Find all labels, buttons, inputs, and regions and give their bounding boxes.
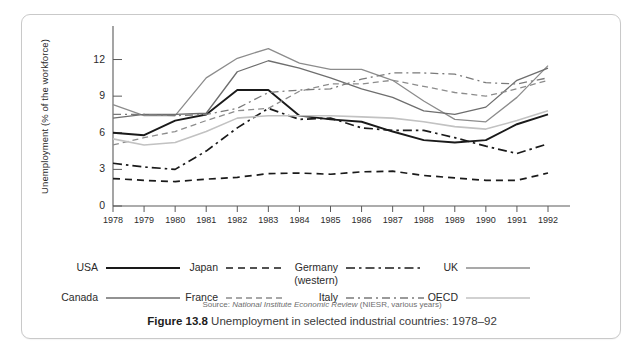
legend-swatch-uk [466, 262, 530, 272]
x-tick-label: 1978 [98, 215, 128, 225]
series-line-italy [113, 73, 548, 116]
x-tick-label: 1988 [409, 215, 439, 225]
x-tick-label: 1982 [222, 215, 252, 225]
series-line-uk [113, 49, 548, 122]
figure-number: Figure 13.8 [147, 315, 208, 327]
x-tick-label: 1992 [533, 215, 563, 225]
x-tick-label: 1986 [347, 215, 377, 225]
x-tick-label: 1981 [191, 215, 221, 225]
legend-label-germany-western: Germany [218, 261, 338, 273]
y-tick-label: 3 [83, 162, 105, 174]
x-tick-label: 1990 [471, 215, 501, 225]
y-tick-label: 12 [83, 53, 105, 65]
y-tick-label: 6 [83, 126, 105, 138]
chart-legend: USAJapanGermany(western)UKCanadaFranceIt… [22, 251, 622, 295]
chart-plot-area: Unemployment (% of the workforce) 036912… [22, 15, 622, 255]
x-tick-label: 1989 [440, 215, 470, 225]
y-tick-label: 0 [83, 199, 105, 211]
x-tick-label: 1984 [284, 215, 314, 225]
x-tick-label: 1987 [378, 215, 408, 225]
y-tick-label: 9 [83, 89, 105, 101]
y-axis-label: Unemployment (% of the workforce) [39, 37, 50, 197]
source-publication: National Institute Economic Review [232, 300, 357, 309]
legend-label-germany-western-line2: (western) [218, 274, 338, 286]
figure-caption-text: Unemployment in selected industrial coun… [211, 315, 497, 327]
x-tick-label: 1980 [160, 215, 190, 225]
source-prefix: Source: [202, 300, 230, 309]
x-tick-label: 1983 [253, 215, 283, 225]
source-suffix: (NIESR, various years) [360, 300, 442, 309]
x-tick-label: 1991 [502, 215, 532, 225]
legend-label-japan: Japan [98, 261, 218, 273]
figure-caption: Figure 13.8 Unemployment in selected ind… [22, 315, 622, 327]
legend-label-uk: UK [338, 261, 458, 273]
x-tick-label: 1979 [129, 215, 159, 225]
source-note: Source: National Institute Economic Revi… [22, 300, 622, 309]
series-line-japan [113, 171, 548, 181]
x-tick-label: 1985 [316, 215, 346, 225]
series-line-germany-western [113, 108, 548, 169]
figure-card: Unemployment (% of the workforce) 036912… [21, 14, 621, 339]
legend-label-usa: USA [0, 261, 98, 273]
